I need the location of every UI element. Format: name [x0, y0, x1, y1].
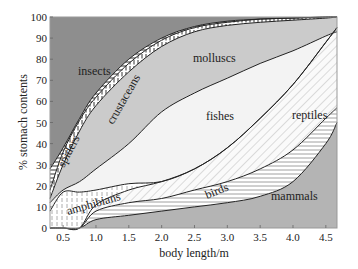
y-tick-label: 30 — [36, 159, 48, 171]
chart-svg: 01020304050607080901000.51.01.52.02.53.0… — [0, 0, 358, 269]
y-tick-label: 0 — [42, 222, 48, 234]
y-tick-label: 40 — [36, 138, 48, 150]
label-molluscs: molluscs — [193, 51, 236, 65]
y-axis-label: % stomach contents — [16, 74, 30, 170]
y-tick-label: 80 — [36, 53, 48, 65]
y-tick-label: 20 — [36, 180, 48, 192]
y-tick-label: 10 — [36, 201, 48, 213]
x-tick-label: 1.0 — [89, 231, 103, 243]
y-tick-label: 50 — [36, 117, 48, 129]
y-tick-label: 100 — [31, 11, 48, 23]
x-tick-label: 1.5 — [122, 231, 136, 243]
x-tick-label: 4.0 — [286, 231, 300, 243]
x-tick-label: 0.5 — [56, 231, 70, 243]
stacked-area-chart: 01020304050607080901000.51.01.52.02.53.0… — [0, 0, 358, 269]
x-tick-label: 2.5 — [188, 231, 202, 243]
label-fishes: fishes — [206, 109, 234, 123]
x-axis-label: body length/m — [159, 246, 229, 260]
label-insects: insects — [78, 64, 111, 78]
x-tick-label: 3.5 — [253, 231, 267, 243]
y-tick-label: 60 — [36, 95, 48, 107]
x-tick-label: 4.5 — [319, 231, 333, 243]
x-tick-label: 3.0 — [220, 231, 234, 243]
y-tick-label: 90 — [36, 32, 48, 44]
x-tick-label: 2.0 — [155, 231, 169, 243]
label-reptiles: reptiles — [292, 108, 328, 122]
label-mammals: mammals — [271, 189, 318, 203]
y-tick-label: 70 — [36, 74, 48, 86]
